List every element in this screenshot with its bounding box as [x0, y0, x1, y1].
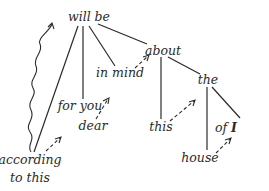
- node-this: this: [149, 119, 173, 134]
- node-in-mind: in mind: [96, 65, 144, 80]
- node-of: of: [215, 120, 230, 135]
- node-for-you: for you: [57, 98, 103, 113]
- node-house: house: [181, 150, 218, 165]
- node-I: I: [230, 120, 238, 135]
- edge-according-dear: [46, 138, 60, 151]
- edge-the-ofI: [212, 87, 240, 118]
- node-will-be: will be: [68, 9, 110, 24]
- node-according: according: [0, 152, 62, 167]
- node-to-this: to this: [10, 170, 50, 185]
- node-dear: dear: [79, 118, 109, 133]
- edge-this-the: [170, 101, 194, 121]
- diagram-svg: will be about in mind for you dear accor…: [0, 0, 269, 191]
- edge-willbe-inmind: [89, 26, 115, 66]
- dependency-diagram: will be about in mind for you dear accor…: [0, 0, 269, 191]
- solid-edges: [34, 24, 240, 152]
- edge-willbe-about: [98, 24, 147, 44]
- edge-about-the: [168, 57, 200, 74]
- node-labels: will be about in mind for you dear accor…: [0, 9, 238, 185]
- node-about: about: [145, 43, 182, 58]
- node-the: the: [198, 72, 218, 87]
